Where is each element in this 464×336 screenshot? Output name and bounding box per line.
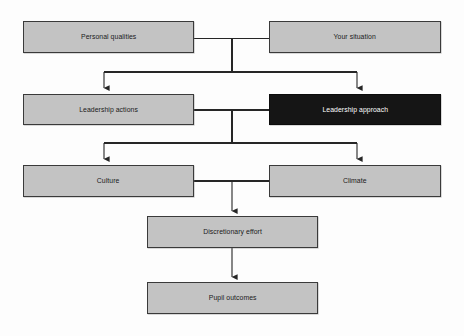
node-label: Pupil outcomes (209, 294, 257, 301)
node-discretionary-effort[interactable]: Discretionary effort (147, 216, 318, 248)
node-climate[interactable]: Climate (269, 165, 441, 197)
node-label: Climate (343, 177, 367, 184)
node-your-situation[interactable]: Your situation (269, 21, 441, 53)
diagram-canvas: Personal qualities Your situation Leader… (0, 0, 464, 336)
node-pupil-outcomes[interactable]: Pupil outcomes (147, 282, 318, 314)
node-label: Your situation (334, 33, 376, 40)
node-leadership-actions[interactable]: Leadership actions (23, 94, 194, 125)
node-leadership-approach[interactable]: Leadership approach (269, 94, 441, 125)
node-label: Personal qualities (81, 33, 136, 40)
node-personal-qualities[interactable]: Personal qualities (23, 21, 194, 53)
node-label: Leadership actions (79, 106, 138, 113)
node-label: Discretionary effort (203, 228, 262, 235)
node-label: Leadership approach (322, 106, 388, 113)
node-label: Culture (97, 177, 120, 184)
node-culture[interactable]: Culture (23, 165, 194, 197)
